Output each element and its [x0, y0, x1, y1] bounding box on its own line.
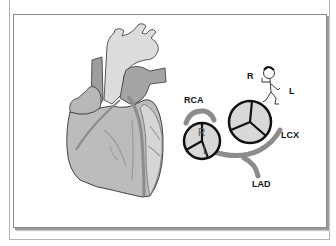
heart-illustration [67, 24, 166, 197]
lad-artery [244, 158, 258, 176]
valve-right [229, 101, 271, 143]
stick-figure-icon [262, 67, 280, 104]
figure-artwork: R L RCA LCX LAD R L [0, 0, 336, 246]
cusp-label-right: R [198, 127, 205, 138]
rca-artery [186, 111, 214, 123]
valve-left: R L [184, 123, 220, 159]
label-lad: LAD [252, 179, 271, 189]
cusp-label-left: L [203, 145, 209, 156]
pulmonary-artery [120, 66, 166, 104]
label-rca: RCA [184, 95, 204, 105]
label-lcx: LCX [281, 130, 299, 140]
label-orientation-right: R [247, 71, 254, 81]
label-orientation-left: L [289, 86, 295, 96]
